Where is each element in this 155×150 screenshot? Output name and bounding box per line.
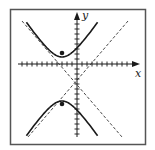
- focus-point-lower: [60, 102, 65, 107]
- hyperbola: [26, 22, 97, 135]
- focus-point-upper: [60, 51, 65, 56]
- x-axis: [18, 61, 140, 67]
- y-axis-label: y: [81, 9, 89, 22]
- asymptote-negative-slope: [22, 21, 122, 137]
- y-axis-arrow-icon: [74, 12, 80, 20]
- x-axis-label: x: [135, 67, 142, 80]
- hyperbola-figure: x y: [0, 0, 155, 150]
- graph-canvas: x y: [0, 0, 155, 150]
- y-axis: [74, 12, 80, 137]
- asymptote-positive-slope: [28, 21, 128, 137]
